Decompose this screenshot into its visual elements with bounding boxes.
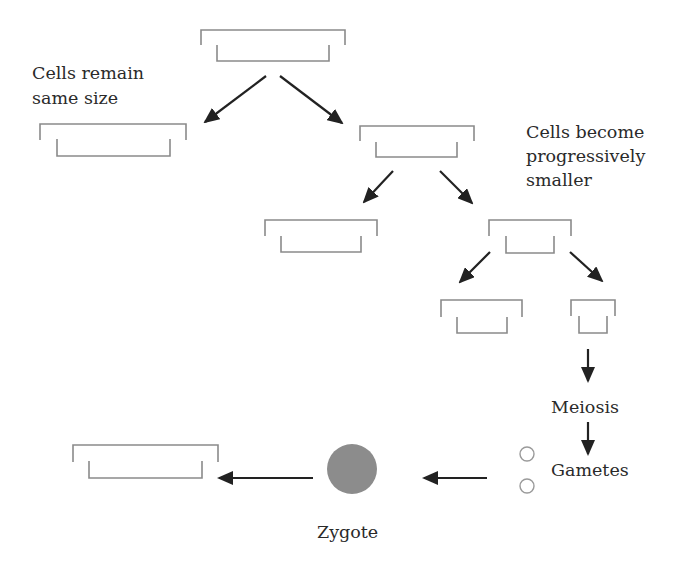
arrow-icon bbox=[280, 76, 342, 123]
cell-offspring bbox=[73, 445, 218, 478]
cell-right-level1 bbox=[360, 126, 474, 157]
arrow-icon bbox=[364, 171, 393, 202]
label-meiosis: Meiosis bbox=[551, 397, 619, 417]
arrow-icon bbox=[205, 76, 266, 122]
cell-left-level3 bbox=[441, 300, 522, 333]
cell-left-level1 bbox=[40, 124, 186, 156]
arrow-icon bbox=[570, 252, 602, 281]
label-gametes: Gametes bbox=[551, 460, 629, 480]
arrow-icon bbox=[440, 171, 472, 203]
label-same-size: Cells remain same size bbox=[32, 63, 150, 108]
cell-right-level3 bbox=[571, 300, 615, 333]
cell-left-level2 bbox=[265, 220, 377, 252]
cell-division-diagram: Cells remain same size Cells become prog… bbox=[0, 0, 691, 568]
gamete-circle bbox=[520, 447, 534, 461]
arrow-icon bbox=[460, 252, 490, 282]
cell-parent bbox=[201, 30, 345, 61]
label-zygote: Zygote bbox=[317, 522, 378, 542]
label-progressively-smaller: Cells become progressively smaller bbox=[526, 122, 651, 190]
zygote-circle bbox=[327, 444, 377, 494]
gamete-circle bbox=[520, 479, 534, 493]
cell-right-level2 bbox=[489, 220, 571, 253]
